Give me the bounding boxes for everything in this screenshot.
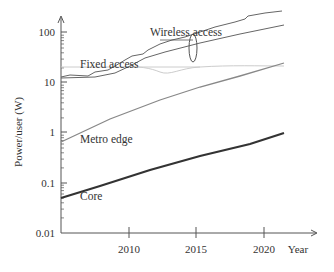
y-tick-1: 1	[50, 126, 56, 138]
label-core: Core	[80, 190, 102, 202]
x-axis-label: Year	[288, 243, 309, 255]
x-tick-2020: 2020	[253, 243, 276, 255]
y-tick-100: 100	[39, 26, 56, 38]
y-tick-10: 10	[44, 76, 56, 88]
y-tick-0.1: 0.1	[41, 177, 55, 189]
series-metro-edge	[61, 63, 284, 142]
x-tick-2010: 2010	[118, 243, 141, 255]
label-metro-edge: Metro edge	[80, 133, 133, 146]
x-tick-2015: 2015	[185, 243, 208, 255]
wireless-fixed-gap-marker	[189, 34, 197, 62]
label-wireless-access: Wireless access	[150, 26, 223, 38]
y-axis	[58, 16, 67, 233]
power-per-user-chart: 100 10 1 0.1 0.01 Power/user (W) 2010 20…	[0, 0, 334, 272]
x-axis	[61, 227, 317, 238]
y-axis-label: Power/user (W)	[12, 97, 25, 167]
y-tick-0.01: 0.01	[36, 227, 55, 239]
label-fixed-access: Fixed access	[80, 58, 139, 70]
